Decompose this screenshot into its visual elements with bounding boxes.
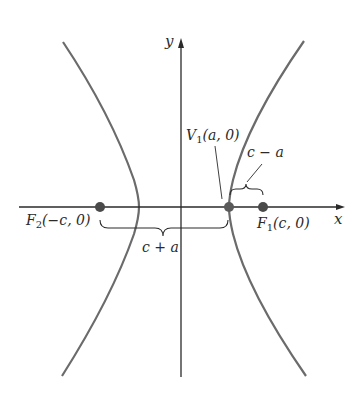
c-minus-a-leader-line bbox=[247, 164, 262, 182]
vertex-v1-coords: (a, 0) bbox=[203, 127, 240, 143]
c-plus-a-brace bbox=[100, 220, 228, 236]
y-axis-label: y bbox=[165, 34, 173, 49]
c-plus-a-label: c + a bbox=[142, 240, 179, 254]
focus-f2-point bbox=[95, 202, 105, 212]
vertex-v1-point bbox=[224, 202, 234, 212]
focus-f1-name: F bbox=[257, 215, 267, 231]
focus-f2-coords: (−c, 0) bbox=[42, 212, 90, 228]
x-axis-label: x bbox=[334, 212, 342, 227]
focus-f2-label: F2(−c, 0) bbox=[26, 213, 90, 230]
c-minus-a-label: c − a bbox=[247, 145, 284, 159]
c-minus-a-brace bbox=[230, 184, 263, 195]
v1-leader-line bbox=[215, 146, 222, 199]
focus-f2-name: F bbox=[26, 212, 36, 228]
hyperbola-diagram bbox=[0, 0, 358, 397]
focus-f1-point bbox=[258, 202, 268, 212]
y-axis-arrow-icon bbox=[178, 38, 184, 48]
vertex-v1-name: V bbox=[186, 127, 196, 143]
focus-f1-coords: (c, 0) bbox=[273, 215, 310, 231]
vertex-v1-label: V1(a, 0) bbox=[186, 128, 240, 145]
focus-f1-label: F1(c, 0) bbox=[257, 216, 310, 233]
